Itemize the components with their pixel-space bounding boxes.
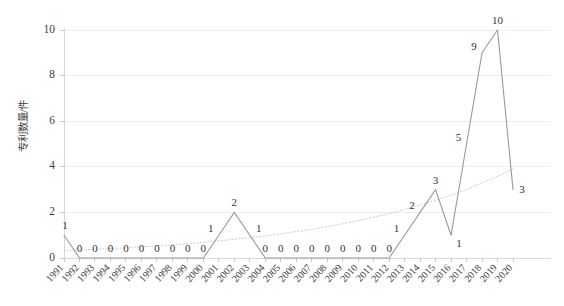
y-tick-labels-group: 0246810 <box>44 23 56 263</box>
data-label-2017: 5 <box>456 131 462 143</box>
data-label-2003: 1 <box>256 222 262 234</box>
data-label-2013: 1 <box>394 222 400 234</box>
data-label-2005: 0 <box>278 242 284 254</box>
gridlines-group <box>64 30 551 258</box>
data-label-2009: 0 <box>340 242 346 254</box>
data-label-2014: 2 <box>409 199 415 211</box>
y-tick-label-8: 8 <box>49 68 55 80</box>
data-label-1998: 0 <box>170 242 176 254</box>
patent-count-line-chart: 0246810 1000000000121000000000123159103 … <box>0 0 564 306</box>
x-tick-label-2020: 2020 <box>493 262 515 284</box>
x-tick-marks-group <box>64 258 513 262</box>
data-label-2004: 0 <box>263 242 269 254</box>
data-label-1996: 0 <box>139 242 145 254</box>
data-label-2000: 0 <box>201 242 207 254</box>
data-label-2015: 3 <box>433 174 439 186</box>
data-label-2006: 0 <box>293 242 299 254</box>
y-tick-label-4: 4 <box>49 159 55 171</box>
data-label-2010: 0 <box>355 242 361 254</box>
y-tick-label-2: 2 <box>49 205 55 217</box>
axis-lines-group <box>64 28 551 258</box>
series-line-group <box>64 30 513 258</box>
data-label-2008: 0 <box>324 242 330 254</box>
y-axis-title: 专利数量/件 <box>17 100 29 153</box>
series-line-path <box>64 30 513 258</box>
data-label-1997: 0 <box>154 242 160 254</box>
data-label-1999: 0 <box>185 242 191 254</box>
data-label-1991: 1 <box>62 219 68 231</box>
y-axis-title-group: 专利数量/件 <box>17 100 29 153</box>
y-tick-label-0: 0 <box>49 251 55 263</box>
data-label-2019: 10 <box>492 14 504 26</box>
data-value-labels-group: 1000000000121000000000123159103 <box>62 14 525 254</box>
y-tick-label-10: 10 <box>44 23 56 35</box>
y-tick-label-6: 6 <box>49 114 55 126</box>
trend-line-path <box>64 169 513 251</box>
data-label-2016: 1 <box>456 237 462 249</box>
data-label-1992: 0 <box>77 242 83 254</box>
data-label-2020: 3 <box>519 183 525 195</box>
data-label-2007: 0 <box>309 242 315 254</box>
x-tick-labels-group: 1991199219931994199519961997199819992000… <box>44 262 515 284</box>
data-label-2002: 2 <box>232 196 238 208</box>
data-label-1994: 0 <box>108 242 114 254</box>
data-label-1995: 0 <box>123 242 129 254</box>
data-label-2018: 9 <box>471 40 477 52</box>
data-label-2001: 1 <box>208 222 214 234</box>
data-label-2011: 0 <box>371 242 377 254</box>
data-label-1993: 0 <box>92 242 98 254</box>
trend-line-group <box>64 169 513 251</box>
data-label-2012: 0 <box>386 242 392 254</box>
chart-canvas: 0246810 1000000000121000000000123159103 … <box>0 0 564 306</box>
